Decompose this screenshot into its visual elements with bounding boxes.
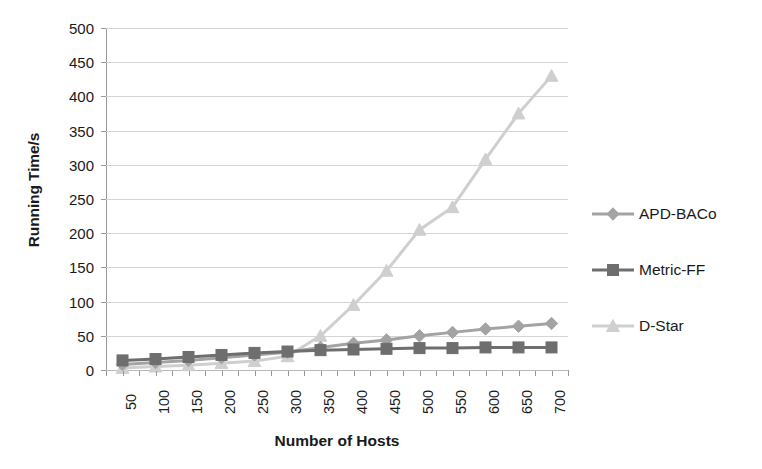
y-tick-label: 150 (69, 259, 94, 276)
x-tickmark-boundary (469, 371, 470, 376)
y-tick-label: 300 (69, 156, 94, 173)
legend-item[interactable]: APD-BACo (590, 186, 756, 242)
x-tickmark (552, 371, 553, 376)
y-axis-title-label: Running Time/s (25, 133, 43, 248)
x-tickmark-boundary (205, 371, 206, 376)
data-point-marker (117, 355, 128, 366)
series-layer (106, 28, 568, 370)
y-tickmark (101, 302, 106, 303)
legend-label: D-Star (639, 317, 684, 335)
x-tick-label: 150 (189, 390, 205, 414)
data-point-marker (479, 323, 491, 335)
y-tick-label: 100 (69, 293, 94, 310)
legend-item[interactable]: D-Star (590, 298, 756, 354)
x-axis-title: Number of Hosts (106, 432, 568, 450)
y-tick-label: 200 (69, 225, 94, 242)
x-tick-label: 100 (156, 390, 172, 414)
data-point-marker (446, 326, 458, 338)
y-tickmark (101, 267, 106, 268)
y-tick-label: 400 (69, 88, 94, 105)
legend-triangle-icon (590, 315, 636, 337)
x-tickmark (255, 371, 256, 376)
x-tick-label: 650 (519, 390, 535, 414)
x-tickmark-boundary (568, 371, 569, 376)
data-point-marker (512, 320, 524, 332)
x-tickmark-boundary (106, 371, 107, 376)
x-tick-label: 600 (486, 390, 502, 414)
data-point-marker (249, 347, 260, 358)
legend-diamond-icon (590, 203, 636, 225)
y-axis-tick-labels: 050100150200250300350400450500 (44, 28, 100, 370)
plot-area (106, 28, 568, 370)
data-point-marker (447, 343, 458, 354)
x-tickmark-boundary (370, 371, 371, 376)
y-tickmark (101, 233, 106, 234)
x-tickmark (288, 371, 289, 376)
x-tickmark (189, 371, 190, 376)
y-tickmark (101, 336, 106, 337)
data-point-marker (282, 346, 293, 357)
data-point-marker (150, 354, 161, 365)
x-tickmark-boundary (535, 371, 536, 376)
y-tickmark (101, 62, 106, 63)
x-tickmark-boundary (337, 371, 338, 376)
x-tick-label: 50 (123, 394, 139, 410)
x-tickmark (519, 371, 520, 376)
x-tickmark (222, 371, 223, 376)
x-tick-label: 400 (354, 390, 370, 414)
legend-item[interactable]: Metric-FF (590, 242, 756, 298)
x-tickmark (486, 371, 487, 376)
chart-legend: APD-BACoMetric-FFD-Star (590, 186, 756, 354)
data-point-marker (480, 342, 491, 353)
data-point-marker (216, 349, 227, 360)
chart-container: Running Time/s 0501001502002503003504004… (0, 0, 762, 469)
data-point-marker (315, 345, 326, 356)
x-tickmark-boundary (403, 371, 404, 376)
x-tickmark-boundary (172, 371, 173, 376)
x-tickmark (156, 371, 157, 376)
data-point-marker (545, 69, 558, 81)
x-tickmark-boundary (139, 371, 140, 376)
x-tickmark (123, 371, 124, 376)
legend-square-icon (590, 259, 636, 281)
data-point-marker (546, 342, 557, 353)
y-tick-label: 500 (69, 20, 94, 37)
y-tick-label: 350 (69, 122, 94, 139)
y-tickmark (101, 28, 106, 29)
x-tick-label: 500 (420, 390, 436, 414)
x-tickmark-boundary (238, 371, 239, 376)
y-tickmark (101, 131, 106, 132)
x-tickmark-boundary (304, 371, 305, 376)
x-tickmark (420, 371, 421, 376)
x-tick-label: 300 (288, 390, 304, 414)
x-tickmark-boundary (502, 371, 503, 376)
x-tickmark (321, 371, 322, 376)
y-tickmark (101, 199, 106, 200)
data-point-marker (413, 330, 425, 342)
data-point-marker (513, 342, 524, 353)
y-tick-label: 0 (86, 362, 94, 379)
y-tick-label: 50 (77, 327, 94, 344)
data-point-marker (545, 317, 557, 329)
x-tick-label: 450 (387, 390, 403, 414)
x-tickmark (453, 371, 454, 376)
legend-label: Metric-FF (639, 261, 705, 279)
x-tick-label: 350 (321, 390, 337, 414)
x-tick-label: 250 (255, 390, 271, 414)
x-tickmark (354, 371, 355, 376)
y-tickmark (101, 165, 106, 166)
x-tickmark-boundary (271, 371, 272, 376)
x-tick-label: 700 (552, 390, 568, 414)
y-tickmark (101, 96, 106, 97)
y-tick-label: 250 (69, 191, 94, 208)
y-tick-label: 450 (69, 54, 94, 71)
x-tick-label: 550 (453, 390, 469, 414)
x-tick-label: 200 (222, 390, 238, 414)
data-point-marker (183, 352, 194, 363)
x-tickmark (387, 371, 388, 376)
x-axis-tick-labels: 5010015020025030035040045050055060065070… (106, 380, 568, 430)
x-tickmark-boundary (436, 371, 437, 376)
data-point-marker (414, 343, 425, 354)
data-point-marker (381, 343, 392, 354)
data-point-marker (348, 344, 359, 355)
